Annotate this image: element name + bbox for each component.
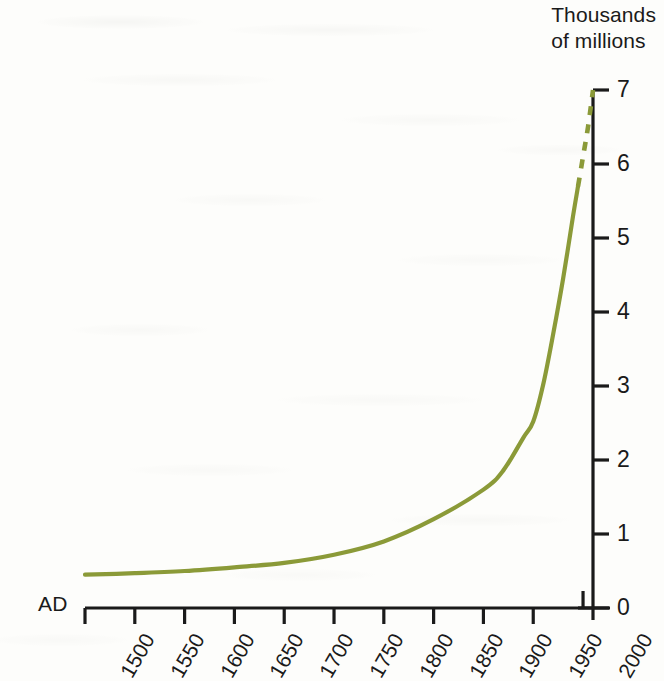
population-curve-observed bbox=[85, 186, 578, 575]
y-tick-label: 3 bbox=[617, 374, 630, 397]
y-tick-label: 2 bbox=[617, 448, 630, 471]
y-tick-label: 5 bbox=[617, 226, 630, 249]
y-tick-label: 0 bbox=[617, 596, 630, 619]
y-tick-label: 6 bbox=[617, 152, 630, 175]
y-tick-label: 1 bbox=[617, 522, 630, 545]
y-tick-label: 7 bbox=[617, 78, 630, 101]
y-tick-label: 4 bbox=[617, 300, 630, 323]
axis-lines bbox=[85, 90, 610, 620]
population-curve-projected bbox=[578, 90, 593, 186]
